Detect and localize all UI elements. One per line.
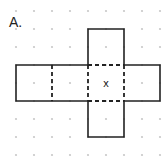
grid-dot — [15, 136, 17, 138]
grid-dot — [105, 10, 107, 12]
cube-net-diagram: A. x — [0, 0, 166, 161]
grid-dot — [141, 82, 143, 84]
grid-dot — [33, 28, 35, 30]
grid-dot — [33, 118, 35, 120]
grid-dot — [69, 46, 71, 48]
grid-dot — [141, 118, 143, 120]
center-x-mark: x — [103, 77, 109, 89]
grid-dot — [51, 136, 53, 138]
grid-dot — [159, 10, 161, 12]
grid-dot — [33, 10, 35, 12]
grid-dot — [69, 136, 71, 138]
grid-dot — [69, 10, 71, 12]
grid-dot — [105, 118, 107, 120]
grid-dot — [159, 118, 161, 120]
grid-dot — [15, 10, 17, 12]
grid-dot — [69, 28, 71, 30]
fold-lines — [52, 65, 124, 101]
grid-dot — [69, 82, 71, 84]
grid-dot — [51, 10, 53, 12]
grid-dot — [159, 28, 161, 30]
grid-dot — [141, 10, 143, 12]
grid-dot — [87, 154, 89, 156]
grid-dot — [159, 154, 161, 156]
grid-dot — [51, 28, 53, 30]
grid-dot — [51, 46, 53, 48]
figure-label: A. — [9, 14, 22, 30]
grid-dot — [123, 154, 125, 156]
grid-dot — [51, 118, 53, 120]
grid-dot — [69, 154, 71, 156]
grid-dot — [51, 154, 53, 156]
grid-dot — [105, 154, 107, 156]
grid-dot — [33, 136, 35, 138]
grid-dot — [141, 136, 143, 138]
grid-dot — [141, 46, 143, 48]
grid-dot — [15, 46, 17, 48]
grid-dot — [159, 46, 161, 48]
grid-dot — [159, 136, 161, 138]
grid-dot — [33, 154, 35, 156]
grid-dot — [123, 10, 125, 12]
grid-dot — [15, 118, 17, 120]
grid-dot — [33, 46, 35, 48]
grid-dot — [69, 118, 71, 120]
grid-dot — [33, 82, 35, 84]
grid-dot — [15, 154, 17, 156]
grid-dot — [87, 10, 89, 12]
grid-dot — [105, 46, 107, 48]
grid-dot — [141, 28, 143, 30]
grid-dot — [141, 154, 143, 156]
